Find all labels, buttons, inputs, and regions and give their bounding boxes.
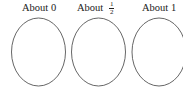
- ovals-diagram: [0, 0, 183, 89]
- oval-about-half: [72, 18, 126, 86]
- oval-about-1: [132, 18, 183, 86]
- oval-about-0: [12, 18, 66, 86]
